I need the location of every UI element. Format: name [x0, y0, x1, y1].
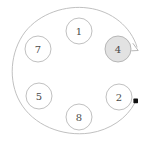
node-5[interactable]: 5 — [26, 83, 52, 109]
node-8-label: 8 — [76, 112, 82, 123]
node-4[interactable]: 4 — [105, 36, 131, 62]
node-1-label: 1 — [76, 26, 82, 37]
node-7[interactable]: 7 — [25, 36, 51, 62]
node-cycle-diagram: 1 4 2 8 5 7 — [0, 0, 150, 146]
diagram-canvas: 1 4 2 8 5 7 — [0, 0, 150, 146]
node-1[interactable]: 1 — [66, 18, 92, 44]
start-dot-marker — [133, 99, 138, 104]
node-5-label: 5 — [36, 91, 42, 102]
node-8[interactable]: 8 — [66, 104, 92, 130]
node-7-label: 7 — [35, 44, 41, 55]
node-2[interactable]: 2 — [106, 84, 132, 110]
node-4-label: 4 — [115, 44, 121, 55]
node-2-label: 2 — [116, 92, 122, 103]
